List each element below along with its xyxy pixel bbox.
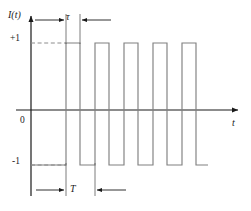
x-axis-label: t — [232, 118, 235, 128]
pulse-width-label: τ — [66, 12, 70, 22]
waveform-canvas — [0, 0, 251, 211]
origin-label: 0 — [20, 116, 25, 126]
period-dimension — [36, 163, 126, 196]
waveform-figure: I(t) τ +1 0 -1 T t — [0, 0, 251, 211]
level-low-label: -1 — [12, 157, 20, 167]
y-axis-label: I(t) — [8, 10, 21, 20]
period-label: T — [70, 184, 76, 194]
square-wave-trace — [31, 43, 208, 165]
level-high-label: +1 — [10, 34, 20, 44]
tau-dimension — [35, 14, 111, 44]
